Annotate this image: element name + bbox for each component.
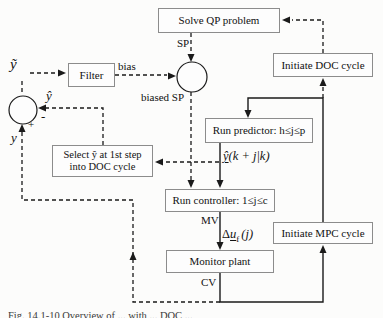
- u-subscript: f: [236, 234, 239, 244]
- label-y-hat: ŷ: [46, 89, 52, 102]
- flowchart-canvas: Solve QP problem Initiate DOC cycle Run …: [0, 0, 383, 318]
- arrowhead-into-predictor: [245, 110, 252, 118]
- arrowhead-into-select: [155, 159, 163, 166]
- node-initiate-mpc-cycle: Initiate MPC cycle: [273, 222, 373, 244]
- figure-caption: Fig. 14.1-10 Overview of ... with ... DO…: [8, 310, 278, 318]
- label-yhat-prediction-expression: ŷ(k + j|k): [223, 150, 270, 163]
- yhat-args: (k + j|k): [229, 149, 270, 163]
- arrowhead-into-filter: [58, 70, 66, 77]
- arrowhead-into-sum-bias: [168, 73, 176, 80]
- label-bias: bias: [118, 61, 136, 72]
- label-delta-u-expression: Δuf(j): [222, 228, 253, 244]
- select-yhat-line2: into DOC cycle: [70, 161, 136, 173]
- node-run-controller: Run controller: 1≤j≤c: [165, 189, 275, 212]
- arrowhead-into-doc: [320, 78, 327, 86]
- node-filter: Filter: [68, 63, 115, 87]
- label-sp: SP: [177, 38, 189, 49]
- edge-doc-to-qp: [292, 20, 323, 53]
- label-minus-sign: -: [41, 110, 45, 123]
- arrowhead-into-controller-dashed: [188, 180, 195, 188]
- node-select-yhat: Select ŷ at 1st step into DOC cycle: [52, 145, 153, 177]
- select-yhat-line1: Select ŷ at 1st step: [63, 149, 141, 161]
- u-args: (j): [241, 227, 253, 241]
- label-y-tilde: ỹ: [10, 57, 17, 72]
- label-plus-sign: +: [28, 119, 34, 130]
- arrowhead-mid-feedback-up: [130, 252, 137, 260]
- arrowhead-into-mpc: [320, 245, 327, 253]
- node-solve-qp-problem: Solve QP problem: [158, 8, 280, 33]
- arrowhead-into-circle-y-plus: [19, 124, 26, 132]
- node-monitor-plant: Monitor plant: [166, 250, 274, 273]
- arrowhead-into-qp: [282, 17, 290, 24]
- label-mv: MV: [201, 215, 219, 226]
- edge-select-to-circle-yhat: [43, 108, 103, 145]
- arrowhead-into-sum-sp: [188, 54, 195, 62]
- node-run-predictor: Run predictor: h≤j≤p: [205, 118, 313, 143]
- label-biased-sp: biased SP: [141, 92, 184, 103]
- label-y-measured: y: [11, 131, 17, 144]
- label-cv: CV: [201, 277, 216, 288]
- summing-junction-biased-sp: [177, 62, 207, 92]
- node-initiate-doc-cycle: Initiate DOC cycle: [273, 53, 373, 77]
- delta-symbol: Δ: [222, 227, 230, 241]
- arrowhead-into-controller-solid: [217, 180, 224, 188]
